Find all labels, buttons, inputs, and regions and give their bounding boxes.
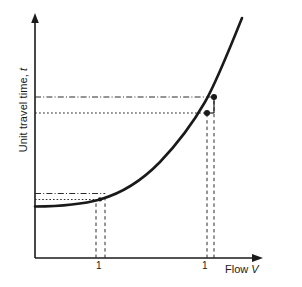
x-axis-label-symbol: V	[251, 263, 258, 275]
high-flow-guides	[35, 97, 214, 258]
low-flow-point-marker	[98, 197, 102, 201]
y-axis-label: Unit travel time, t	[17, 35, 29, 185]
x-axis-label: Flow V	[225, 263, 259, 275]
figure-canvas: Unit travel time, t Flow V 1 1	[0, 0, 302, 287]
y-axis-label-text: Unit travel time,	[17, 71, 29, 152]
low-flow-guides	[35, 194, 105, 259]
high-flow-point-marker	[204, 110, 210, 116]
x-axis-arrowhead	[252, 254, 263, 262]
y-axis-arrowhead	[31, 13, 39, 23]
x-axis-label-text: Flow	[225, 263, 251, 275]
x-tick-label-low: 1	[96, 260, 102, 271]
x-tick-label-high: 1	[202, 260, 208, 271]
high-flow-incremented-point-marker	[211, 94, 217, 100]
plot-svg	[0, 0, 302, 287]
y-axis-label-symbol: t	[17, 68, 29, 71]
volume-delay-curve	[35, 18, 242, 207]
